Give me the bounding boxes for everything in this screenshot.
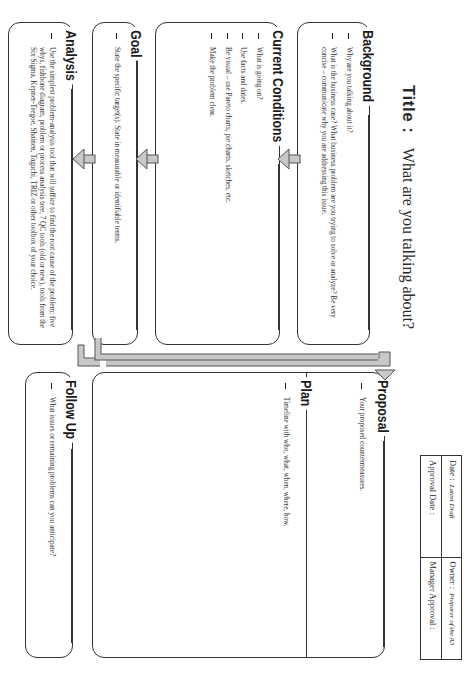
plan-heading: Plan	[299, 377, 316, 410]
background-section[interactable]: Background Why are you talking about it?…	[297, 22, 370, 345]
current-conditions-list: What is going on? Use facts and dates. B…	[201, 33, 263, 334]
list-item: Timeline with who, what, when, where, ho…	[281, 383, 291, 647]
list-item: State the specific target(s). State in m…	[112, 33, 122, 334]
follow-up-header: Follow Up	[63, 373, 81, 643]
current-conditions-header: Current Conditions	[270, 23, 288, 330]
list-item: Be visual – use Pareto charts, pie chart…	[223, 33, 233, 334]
plan-list: Timeline with who, what, when, where, ho…	[275, 383, 291, 647]
proposal-plan-section[interactable]: Proposal Your proposed countermeasures. …	[92, 372, 385, 658]
plan-header: Plan	[298, 373, 316, 657]
follow-up-list: What issues or remaining problems can yo…	[41, 383, 57, 647]
current-conditions-heading: Current Conditions	[271, 27, 288, 146]
proposal-heading: Proposal	[376, 377, 393, 436]
manager-approval-cell[interactable]: Manager Approval :	[421, 558, 441, 660]
analysis-section[interactable]: Analysis Use the simplest problem-analys…	[8, 22, 73, 345]
heading-rule	[137, 60, 138, 330]
goal-list: State the specific target(s). State in m…	[106, 33, 122, 334]
date-cell[interactable]: Date : Latest Draft	[441, 456, 461, 558]
current-conditions-section[interactable]: Current Conditions What is going on? Use…	[155, 22, 280, 345]
background-list: Why are you talking about it? What is th…	[313, 33, 354, 334]
heading-rule	[72, 89, 73, 330]
list-item: What is the business case? What business…	[319, 33, 338, 334]
goal-header: Goal	[128, 23, 146, 330]
date-value: Latest Draft	[448, 485, 456, 519]
manager-approval-label: Manager Approval :	[428, 562, 438, 630]
analysis-heading: Analysis	[64, 27, 81, 84]
heading-rule	[72, 449, 73, 643]
title-row: Title : What are you talking about?	[398, 85, 418, 329]
heading-rule	[279, 164, 280, 330]
list-item: Use facts and dates.	[238, 33, 248, 334]
owner-value: Preparer of the A3	[448, 593, 456, 645]
list-item: What is going on?	[254, 33, 264, 334]
proposal-list: Your proposed countermeasures.	[351, 383, 367, 647]
analysis-list: Use the simplest problem-analysis tool t…	[22, 33, 57, 334]
list-item: Make the problem clear.	[207, 33, 217, 334]
header-info-table: Date : Latest Draft Owner : Preparer of …	[420, 455, 462, 660]
approval-date-label: Approval Date :	[428, 460, 438, 515]
heading-rule	[369, 115, 370, 330]
owner-label: Owner :	[448, 562, 458, 590]
title-text[interactable]: What are you talking about?	[400, 148, 417, 329]
proposal-header: Proposal	[375, 373, 393, 647]
list-item: Your proposed countermeasures.	[357, 383, 367, 647]
goal-heading: Goal	[129, 27, 146, 61]
background-header: Background	[360, 23, 378, 330]
list-item: Why are you talking about it?	[344, 33, 354, 334]
follow-up-heading: Follow Up	[64, 377, 81, 442]
owner-cell[interactable]: Owner : Preparer of the A3	[441, 558, 461, 660]
follow-up-section[interactable]: Follow Up What issues or remaining probl…	[25, 372, 73, 658]
a3-report-sheet: Title : What are you talking about? Date…	[0, 0, 470, 673]
approval-date-cell[interactable]: Approval Date :	[421, 456, 441, 558]
goal-section[interactable]: Goal State the specific target(s). State…	[92, 22, 138, 345]
background-heading: Background	[361, 27, 378, 105]
heading-rule	[384, 441, 385, 647]
connector-arrow-icon	[78, 345, 390, 368]
analysis-header: Analysis	[63, 23, 81, 330]
list-item: Use the simplest problem-analysis tool t…	[28, 33, 57, 334]
date-label: Date :	[448, 460, 458, 481]
list-item: What issues or remaining problems can yo…	[47, 383, 57, 647]
title-label: Title :	[399, 85, 418, 134]
